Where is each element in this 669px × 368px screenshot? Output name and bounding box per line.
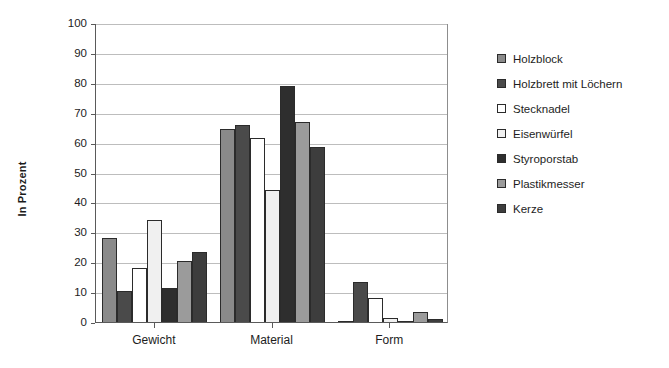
y-tick-mark — [91, 84, 95, 85]
bar-group-material — [220, 24, 325, 322]
legend-item: Holzbrett mit Löchern — [497, 71, 622, 96]
y-tick-label: 80 — [55, 78, 87, 89]
bar — [177, 261, 192, 322]
plot-area — [95, 24, 448, 323]
bar — [398, 321, 413, 322]
legend-swatch-icon — [497, 79, 506, 88]
legend-swatch-icon — [497, 204, 506, 213]
y-tick-label: 50 — [55, 168, 87, 179]
y-tick-mark — [91, 203, 95, 204]
bar — [368, 298, 383, 322]
bar-chart: In Prozent 1009080706050403020100 Gewich… — [0, 0, 669, 368]
legend-label: Holzblock — [513, 53, 563, 65]
y-tick-mark — [91, 24, 95, 25]
legend-item: Eisenwürfel — [497, 121, 622, 146]
bar-group-form — [338, 24, 443, 322]
legend-label: Eisenwürfel — [513, 128, 572, 140]
legend-item: Holzblock — [497, 46, 622, 71]
legend-item: Plastikmesser — [497, 171, 622, 196]
x-tick-label: Gewicht — [94, 333, 214, 347]
bar — [192, 252, 207, 322]
bar — [338, 321, 353, 322]
bar — [280, 86, 295, 322]
legend-label: Styroporstab — [513, 153, 578, 165]
bar — [413, 312, 428, 322]
bar — [250, 138, 265, 322]
bar-group-gewicht — [102, 24, 207, 322]
y-tick-mark — [91, 174, 95, 175]
legend-label: Plastikmesser — [513, 178, 585, 190]
legend-swatch-icon — [497, 104, 506, 113]
y-tick-label: 60 — [55, 138, 87, 149]
bar — [102, 238, 117, 322]
x-tick-label: Material — [212, 333, 332, 347]
legend-swatch-icon — [497, 179, 506, 188]
y-tick-label: 90 — [55, 48, 87, 59]
y-axis-title: In Prozent — [16, 134, 28, 244]
y-tick-label: 10 — [55, 287, 87, 298]
bar — [117, 291, 132, 322]
y-tick-label: 30 — [55, 227, 87, 238]
bar — [310, 147, 325, 322]
y-tick-label: 70 — [55, 108, 87, 119]
y-tick-label: 40 — [55, 197, 87, 208]
y-tick-label: 100 — [55, 18, 87, 29]
y-tick-mark — [91, 323, 95, 324]
x-tick-mark — [389, 323, 390, 328]
legend-label: Holzbrett mit Löchern — [513, 78, 622, 90]
bar — [147, 220, 162, 322]
y-tick-mark — [91, 144, 95, 145]
y-tick-label: 0 — [55, 317, 87, 328]
x-tick-mark — [272, 323, 273, 328]
legend-item: Kerze — [497, 196, 622, 221]
bar — [383, 318, 398, 322]
legend-label: Kerze — [513, 203, 543, 215]
bar — [220, 129, 235, 322]
legend-swatch-icon — [497, 154, 506, 163]
bar — [132, 268, 147, 322]
y-tick-label: 20 — [55, 257, 87, 268]
x-tick-label: Form — [329, 333, 449, 347]
bar — [162, 288, 177, 322]
bar — [295, 122, 310, 322]
legend: HolzblockHolzbrett mit LöchernStecknadel… — [497, 46, 622, 221]
legend-swatch-icon — [497, 54, 506, 63]
legend-swatch-icon — [497, 129, 506, 138]
legend-label: Stecknadel — [513, 103, 570, 115]
y-tick-mark — [91, 114, 95, 115]
x-tick-mark — [154, 323, 155, 328]
bar — [265, 190, 280, 322]
legend-item: Stecknadel — [497, 96, 622, 121]
bar — [235, 125, 250, 322]
bar — [428, 319, 443, 322]
y-tick-mark — [91, 263, 95, 264]
bar — [353, 282, 368, 322]
y-tick-mark — [91, 54, 95, 55]
y-tick-mark — [91, 293, 95, 294]
legend-item: Styroporstab — [497, 146, 622, 171]
y-tick-mark — [91, 233, 95, 234]
